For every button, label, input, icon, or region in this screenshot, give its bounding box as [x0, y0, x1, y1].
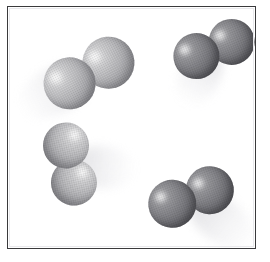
gas-container-frame: [7, 6, 256, 249]
molecular-motion-figure: [0, 0, 270, 262]
